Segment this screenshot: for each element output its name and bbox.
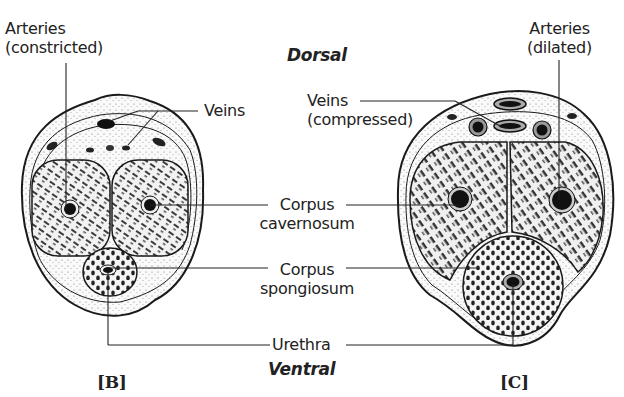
panel-b-label: [B] — [97, 373, 127, 392]
veins-label-line2: (compressed) — [307, 110, 413, 129]
panel-c-section — [398, 91, 613, 345]
ventral-label: Ventral — [268, 360, 335, 379]
corpus-cavernosum-line2: cavernosum — [257, 214, 357, 233]
urethra-label: Urethra — [272, 335, 330, 354]
corpus-cavernosum-label: Corpus cavernosum — [257, 195, 357, 233]
panel-c-label: [C] — [500, 373, 529, 392]
corpus-spongiosum-label: Corpus spongiosum — [257, 260, 357, 298]
corpus-cavernosum-line1: Corpus — [257, 195, 357, 214]
corpus-spongiosum-line1: Corpus — [257, 260, 357, 279]
veins-compressed-label: Veins (compressed) — [307, 91, 413, 129]
dorsal-label: Dorsal — [287, 46, 347, 65]
arteries-label-line1: Arteries — [5, 19, 103, 38]
veins-label: Veins — [204, 101, 245, 120]
arteries-label-line2: (constricted) — [5, 38, 103, 57]
arteries-label-line2: (dilated) — [527, 38, 592, 57]
corpus-spongiosum-line2: spongiosum — [257, 279, 357, 298]
veins-label-line1: Veins — [307, 91, 413, 110]
arteries-constricted-label: Arteries (constricted) — [5, 19, 103, 57]
arteries-dilated-label: Arteries (dilated) — [527, 19, 592, 57]
arteries-label-line1: Arteries — [527, 19, 592, 38]
